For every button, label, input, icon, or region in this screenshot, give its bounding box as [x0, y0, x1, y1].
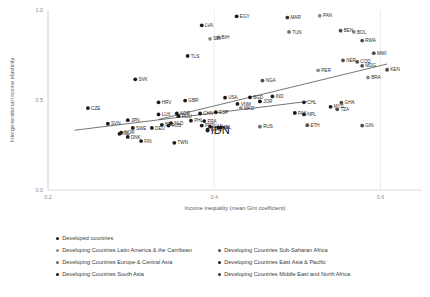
data-point-TWN[interactable]	[172, 141, 176, 145]
data-point-CZE[interactable]	[86, 106, 90, 110]
data-point-VNM[interactable]	[236, 102, 240, 106]
point-label-NPL: NPL	[307, 112, 316, 117]
legend-swatch-icon	[56, 273, 59, 276]
data-point-BEL[interactable]	[160, 123, 164, 127]
legend-swatch-icon	[56, 237, 59, 240]
point-label-MDG: MDG	[365, 63, 376, 68]
data-point-FIN[interactable]	[139, 139, 143, 143]
data-point-BRA[interactable]	[366, 76, 370, 80]
legend-swatch-icon	[218, 261, 221, 264]
point-label-CHL: CHL	[307, 100, 317, 105]
point-label-EGY: EGY	[240, 14, 250, 19]
data-point-KEN[interactable]	[385, 68, 389, 72]
data-point-EGY[interactable]	[235, 14, 239, 18]
data-point-MAR[interactable]	[285, 16, 289, 20]
data-point-MYS[interactable]	[329, 105, 333, 109]
data-point-JPN[interactable]	[126, 118, 130, 122]
data-point-SLV[interactable]	[208, 37, 212, 41]
data-point-PER[interactable]	[316, 68, 320, 72]
legend-item-0[interactable]: Developed countries	[56, 236, 113, 242]
legend-item-6[interactable]: Developing Countries Middle East and Nor…	[218, 272, 350, 278]
point-label-MWI: MWI	[377, 51, 386, 56]
data-point-IDN[interactable]	[206, 129, 210, 133]
data-point-RWA[interactable]	[360, 39, 364, 43]
point-label-ESP: ESP	[219, 110, 228, 115]
data-point-TLS[interactable]	[186, 54, 190, 58]
data-point-BEN[interactable]	[339, 29, 343, 33]
data-point-IND[interactable]	[271, 95, 275, 99]
legend-swatch-icon	[56, 249, 59, 252]
data-point-SVK[interactable]	[133, 77, 137, 81]
point-label-GIN: GIN	[365, 123, 373, 128]
data-point-PAK[interactable]	[293, 111, 297, 115]
legend-item-2[interactable]: Developing Countries Sub-Saharan Africa	[218, 248, 328, 254]
data-point-SWE[interactable]	[131, 126, 135, 130]
data-point-PRT[interactable]	[200, 124, 204, 128]
y-tick-label: 1.0	[36, 7, 44, 13]
point-label-BEN: BEN	[344, 28, 353, 33]
data-point-ETH[interactable]	[305, 123, 309, 127]
data-point-NGA[interactable]	[261, 79, 265, 83]
point-label-RUS: RUS	[263, 124, 273, 129]
point-label-ROU: ROU	[182, 114, 192, 119]
point-label-HRV: HRV	[162, 100, 173, 105]
data-point-DNK[interactable]	[126, 135, 130, 139]
data-point-ESP[interactable]	[214, 110, 218, 114]
data-point-MDG[interactable]	[360, 64, 364, 68]
point-label-USA: USA	[228, 95, 238, 100]
data-point-DEU[interactable]	[150, 126, 154, 130]
legend-label: Developed countries	[62, 236, 113, 242]
data-point-LVA[interactable]	[200, 23, 204, 27]
data-point-COD[interactable]	[355, 60, 359, 64]
point-label-GBR: GBR	[188, 98, 199, 103]
data-point-JOR[interactable]	[258, 100, 262, 104]
data-point-USA[interactable]	[223, 96, 227, 100]
point-label-NER: NER	[346, 58, 356, 63]
data-point-BGD[interactable]	[248, 95, 252, 99]
point-label-FIN: FIN	[144, 139, 151, 144]
point-label-KEN: KEN	[390, 67, 399, 72]
data-point-BIH[interactable]	[216, 35, 220, 39]
point-label-MYS: MYS	[334, 104, 344, 109]
data-point-LUX[interactable]	[157, 113, 161, 117]
data-point-MWI[interactable]	[372, 51, 376, 55]
legend-swatch-icon	[218, 249, 221, 252]
y-tick-label: 0.5	[36, 97, 44, 103]
point-label-NGA: NGA	[266, 78, 277, 83]
y-axis-title: Intergenerational income elasticity	[9, 58, 15, 143]
point-label-IND: IND	[276, 94, 285, 99]
legend-swatch-icon	[218, 273, 221, 276]
data-point-PAN[interactable]	[318, 14, 322, 18]
point-label-SVN: SVN	[111, 121, 120, 126]
data-point-CHN[interactable]	[198, 112, 202, 116]
chart-legend: Developed countriesDeveloping Countries …	[0, 232, 430, 297]
data-point-ROU[interactable]	[177, 114, 181, 118]
data-point-TUN[interactable]	[287, 30, 291, 34]
data-point-MKD[interactable]	[239, 106, 243, 110]
data-point-GIN[interactable]	[360, 124, 364, 128]
data-point-GBR[interactable]	[183, 99, 187, 103]
data-point-CHL[interactable]	[302, 100, 306, 104]
data-point-HRV[interactable]	[157, 100, 161, 104]
legend-item-4[interactable]: Developing Countries East Asia & Pacific	[218, 260, 326, 266]
data-point-SVN[interactable]	[106, 122, 110, 126]
point-label-BIH: BIH	[222, 35, 230, 40]
data-point-PHL[interactable]	[189, 119, 193, 123]
y-tick-label: 0.0	[36, 187, 44, 193]
data-point-NER[interactable]	[341, 59, 345, 63]
point-label-CZE: CZE	[91, 106, 100, 111]
legend-item-1[interactable]: Developing Countries Latin America & the…	[56, 248, 192, 254]
legend-label: Developing Countries Sub-Saharan Africa	[224, 248, 328, 254]
legend-item-5[interactable]: Developing Countries South Asia	[56, 272, 144, 278]
data-point-RUS[interactable]	[258, 125, 262, 129]
point-label-TLS: TLS	[191, 54, 199, 59]
point-label-JPN: JPN	[131, 118, 140, 123]
point-label-GHA: GHA	[345, 100, 356, 105]
legend-label: Developing Countries Middle East and Nor…	[224, 272, 350, 278]
legend-item-3[interactable]: Developing Countries Europe & Central As…	[56, 260, 172, 266]
data-point-ISL[interactable]	[118, 132, 122, 136]
x-tick-label: 0.4	[210, 194, 218, 200]
point-label-TUN: TUN	[292, 30, 301, 35]
point-label-PER: PER	[321, 68, 331, 73]
point-label-JOR: JOR	[263, 99, 273, 104]
